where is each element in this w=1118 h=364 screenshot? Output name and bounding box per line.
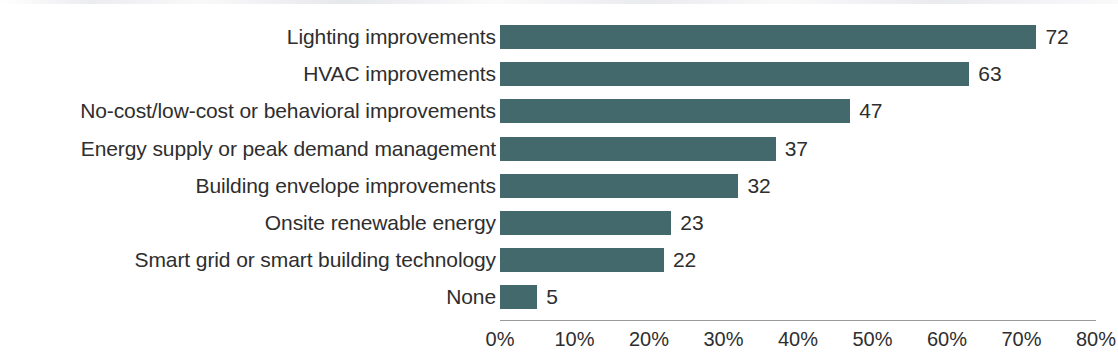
x-tick-label: 40% xyxy=(778,328,818,351)
bar-value-label: 72 xyxy=(1045,22,1068,52)
x-tick-label: 60% xyxy=(927,328,967,351)
x-tick-label: 80% xyxy=(1076,328,1116,351)
category-label: Lighting improvements xyxy=(287,22,496,52)
plot-area: Lighting improvements72HVAC improvements… xyxy=(0,0,1118,364)
x-tick-label: 10% xyxy=(554,328,594,351)
bar-value-label: 32 xyxy=(747,171,770,201)
x-axis-line xyxy=(500,320,1096,321)
bar-row: Onsite renewable energy23 xyxy=(0,208,1118,238)
x-tick-label: 20% xyxy=(629,328,669,351)
category-label: None xyxy=(446,282,496,312)
bar-row: Building envelope improvements32 xyxy=(0,171,1118,201)
bar xyxy=(500,137,776,161)
bar-row: HVAC improvements63 xyxy=(0,59,1118,89)
bar-chart: Lighting improvements72HVAC improvements… xyxy=(0,0,1118,364)
x-tick-label: 50% xyxy=(852,328,892,351)
bar xyxy=(500,174,738,198)
bar xyxy=(500,285,537,309)
category-label: Building envelope improvements xyxy=(195,171,496,201)
bar-value-label: 47 xyxy=(859,96,882,126)
bar-row: Energy supply or peak demand management3… xyxy=(0,134,1118,164)
bar-value-label: 63 xyxy=(978,59,1001,89)
category-label: No-cost/low-cost or behavioral improveme… xyxy=(80,96,496,126)
bar xyxy=(500,25,1036,49)
bar xyxy=(500,211,671,235)
bar xyxy=(500,62,969,86)
category-label: Smart grid or smart building technology xyxy=(135,245,496,275)
bar xyxy=(500,99,850,123)
x-tick-label: 70% xyxy=(1001,328,1041,351)
bar-row: No-cost/low-cost or behavioral improveme… xyxy=(0,96,1118,126)
x-tick-label: 30% xyxy=(703,328,743,351)
bar-row: Smart grid or smart building technology2… xyxy=(0,245,1118,275)
bar-value-label: 22 xyxy=(673,245,696,275)
bar-value-label: 23 xyxy=(680,208,703,238)
bar-row: Lighting improvements72 xyxy=(0,22,1118,52)
bar-value-label: 5 xyxy=(546,282,558,312)
category-label: Energy supply or peak demand management xyxy=(81,134,496,164)
category-label: HVAC improvements xyxy=(303,59,496,89)
category-label: Onsite renewable energy xyxy=(265,208,496,238)
bar xyxy=(500,248,664,272)
bar-value-label: 37 xyxy=(785,134,808,164)
x-tick-label: 0% xyxy=(486,328,515,351)
bar-row: None5 xyxy=(0,282,1118,312)
